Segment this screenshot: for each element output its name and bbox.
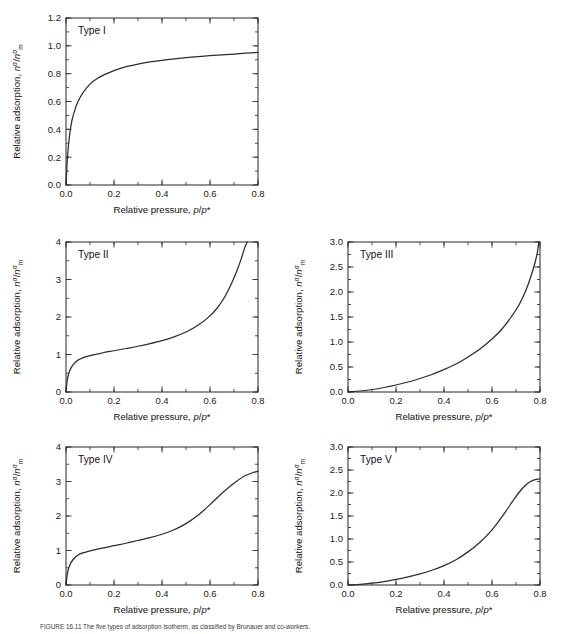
plot-panel-type-v: 0.00.20.40.60.80.00.51.01.52.02.53.0Type…	[282, 429, 564, 622]
svg-text:Relative adsorption, nσ/nσm: Relative adsorption, nσ/nσm	[293, 458, 306, 573]
x-tick-label: 0.4	[437, 395, 450, 406]
plot-frame	[66, 242, 258, 392]
y-tick-label: 1	[56, 545, 61, 556]
plot-frame	[348, 447, 540, 585]
panel-title: Type V	[360, 454, 392, 465]
isotherm-curve	[348, 242, 539, 392]
panel-title: Type IV	[78, 454, 113, 465]
x-tick-label: 0.8	[251, 188, 264, 199]
x-tick-label: 0.0	[341, 395, 354, 406]
y-tick-label: 3.0	[330, 441, 343, 452]
y-tick-label: 1.2	[48, 12, 61, 23]
y-tick-label: 1.0	[330, 336, 343, 347]
y-tick-label: 1.0	[330, 533, 343, 544]
y-tick-label: 0.8	[48, 68, 61, 79]
y-tick-label: 4	[56, 441, 61, 452]
svg-text:Relative adsorption, nσ/nσm: Relative adsorption, nσ/nσm	[11, 259, 24, 374]
y-tick-label: 0	[56, 579, 61, 590]
plot-panel-type-iii: 0.00.20.40.60.80.00.51.01.52.02.53.0Type…	[282, 224, 564, 429]
x-tick-label: 0.6	[203, 395, 216, 406]
svg-text:Relative adsorption, nσ/nσm: Relative adsorption, nσ/nσm	[11, 458, 24, 573]
x-tick-label: 0.6	[485, 395, 498, 406]
isotherm-curve	[66, 242, 247, 392]
isotherm-curve	[348, 479, 540, 585]
x-tick-label: 0.8	[533, 588, 546, 599]
adsorption-isotherm-figure: 0.00.20.40.60.80.00.20.40.60.81.01.2Type…	[0, 0, 564, 634]
y-tick-label: 0.0	[330, 579, 343, 590]
x-tick-label: 0.4	[155, 188, 168, 199]
x-tick-label: 0.0	[59, 188, 72, 199]
y-tick-label: 2.5	[330, 464, 343, 475]
x-tick-label: 0.8	[251, 588, 264, 599]
x-tick-label: 0.4	[437, 588, 450, 599]
isotherm-curve	[66, 52, 258, 185]
y-tick-label: 3.0	[330, 236, 343, 247]
y-tick-label: 2.0	[330, 286, 343, 297]
y-tick-label: 1.5	[330, 311, 343, 322]
plot-panel-type-iv: 0.00.20.40.60.801234Type IVRelative pres…	[0, 429, 282, 622]
y-tick-label: 0.0	[330, 386, 343, 397]
y-tick-label: 0.5	[330, 361, 343, 372]
x-tick-label: 0.2	[107, 588, 120, 599]
y-tick-label: 0.6	[48, 96, 61, 107]
y-tick-label: 1.5	[330, 510, 343, 521]
y-tick-label: 0.0	[48, 179, 61, 190]
y-tick-label: 2.0	[330, 487, 343, 498]
plot-frame	[66, 447, 258, 585]
x-tick-label: 0.8	[251, 395, 264, 406]
y-tick-label: 1	[56, 349, 61, 360]
y-tick-label: 3	[56, 476, 61, 487]
svg-text:Relative pressure, p/p*: Relative pressure, p/p*	[113, 411, 210, 422]
plot-panel-type-i: 0.00.20.40.60.80.00.20.40.60.81.01.2Type…	[0, 0, 282, 222]
svg-text:Relative pressure, p/p*: Relative pressure, p/p*	[113, 604, 210, 615]
y-tick-label: 3	[56, 274, 61, 285]
x-tick-label: 0.6	[203, 188, 216, 199]
x-tick-label: 0.2	[389, 588, 402, 599]
x-tick-label: 0.0	[59, 395, 72, 406]
y-tick-label: 0.2	[48, 152, 61, 163]
plot-panel-type-ii: 0.00.20.40.60.801234Type IIRelative pres…	[0, 224, 282, 429]
x-tick-label: 0.6	[485, 588, 498, 599]
panel-title: Type I	[78, 25, 106, 36]
x-tick-label: 0.8	[533, 395, 546, 406]
y-tick-label: 4	[56, 236, 61, 247]
y-tick-label: 2.5	[330, 261, 343, 272]
y-tick-label: 0.5	[330, 556, 343, 567]
svg-text:Relative adsorption, nσ/nσm: Relative adsorption, nσ/nσm	[11, 44, 24, 159]
y-tick-label: 2	[56, 311, 61, 322]
isotherm-curve	[66, 471, 258, 585]
x-tick-label: 0.0	[341, 588, 354, 599]
x-tick-label: 0.4	[155, 395, 168, 406]
svg-text:Relative adsorption, nσ/nσm: Relative adsorption, nσ/nσm	[293, 259, 306, 374]
svg-text:Relative pressure, p/p*: Relative pressure, p/p*	[395, 604, 492, 615]
panel-title: Type III	[360, 249, 393, 260]
svg-text:Relative pressure, p/p*: Relative pressure, p/p*	[395, 411, 492, 422]
y-tick-label: 2	[56, 510, 61, 521]
y-tick-label: 0.4	[48, 124, 61, 135]
x-tick-label: 0.6	[203, 588, 216, 599]
x-tick-label: 0.4	[155, 588, 168, 599]
x-tick-label: 0.2	[107, 395, 120, 406]
y-tick-label: 1.0	[48, 40, 61, 51]
svg-text:Relative pressure, p/p*: Relative pressure, p/p*	[113, 204, 210, 215]
x-tick-label: 0.0	[59, 588, 72, 599]
x-tick-label: 0.2	[107, 188, 120, 199]
figure-caption: FIGURE 16.11 The five types of adsorptio…	[40, 622, 540, 634]
plot-frame	[66, 18, 258, 185]
x-tick-label: 0.2	[389, 395, 402, 406]
y-tick-label: 0	[56, 386, 61, 397]
panel-title: Type II	[78, 249, 109, 260]
